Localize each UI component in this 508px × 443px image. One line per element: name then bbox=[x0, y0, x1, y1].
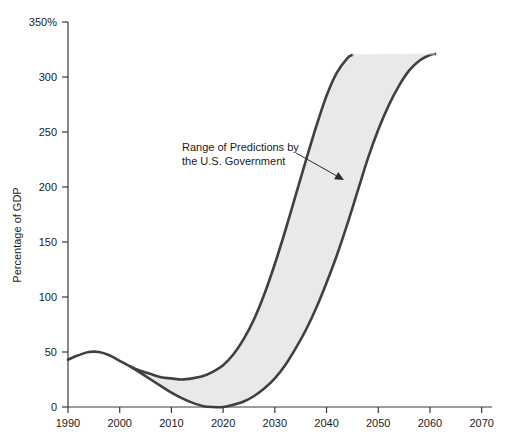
x-axis-ticks bbox=[68, 407, 482, 413]
y-axis-tick-label: 0 bbox=[51, 401, 57, 413]
x-axis-tick-labels: 199020002010202020302040205020602070 bbox=[56, 417, 494, 429]
annotation-line-2: the U.S. Government bbox=[182, 155, 285, 167]
y-axis-tick-label: 200 bbox=[39, 181, 57, 193]
y-axis-tick-label: 50 bbox=[45, 346, 57, 358]
y-axis-ticks bbox=[62, 22, 68, 407]
x-axis-tick-label: 2030 bbox=[263, 417, 287, 429]
x-axis-tick-label: 2010 bbox=[159, 417, 183, 429]
y-axis-tick-label: 350% bbox=[29, 16, 57, 28]
x-axis-tick-label: 2000 bbox=[107, 417, 131, 429]
x-axis-tick-label: 2050 bbox=[366, 417, 390, 429]
x-axis-tick-label: 2040 bbox=[314, 417, 338, 429]
y-axis-tick-labels: 050100150200250300350% bbox=[29, 16, 57, 413]
gdp-percentage-area-chart: 050100150200250300350% 19902000201020202… bbox=[0, 0, 508, 443]
x-axis-tick-label: 2060 bbox=[418, 417, 442, 429]
annotation-line-1: Range of Predictions by bbox=[182, 141, 299, 153]
y-axis-tick-label: 300 bbox=[39, 71, 57, 83]
x-axis-tick-label: 1990 bbox=[56, 417, 80, 429]
y-axis-tick-label: 150 bbox=[39, 236, 57, 248]
chart-container: 050100150200250300350% 19902000201020202… bbox=[0, 0, 508, 443]
y-axis-tick-label: 100 bbox=[39, 291, 57, 303]
y-axis-tick-label: 250 bbox=[39, 126, 57, 138]
x-axis-tick-label: 2020 bbox=[211, 417, 235, 429]
y-axis-title: Percentage of GDP bbox=[11, 187, 23, 282]
x-axis-tick-label: 2070 bbox=[469, 417, 493, 429]
